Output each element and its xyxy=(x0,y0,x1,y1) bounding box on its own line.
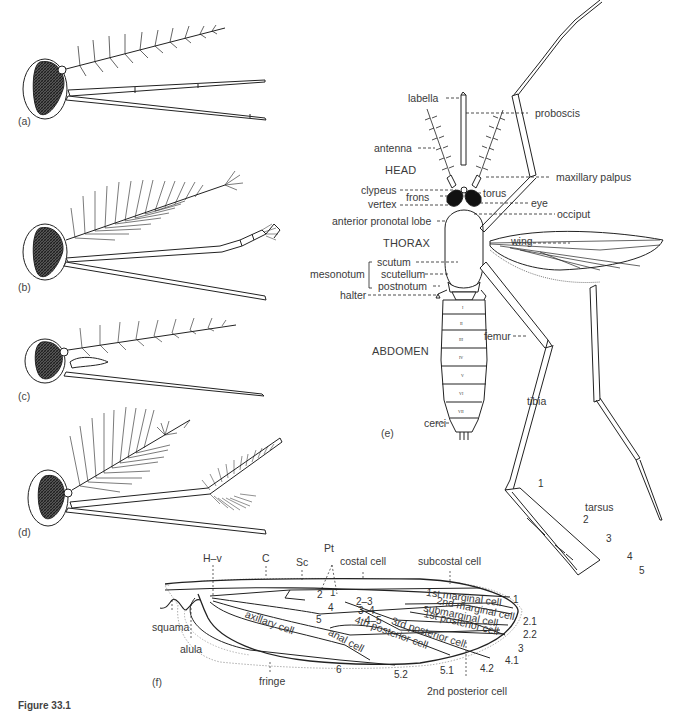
label-subcostal-cell: subcostal cell xyxy=(418,556,481,567)
vein-4-5: 4–5 xyxy=(365,616,382,626)
region-abdomen: ABDOMEN xyxy=(372,346,429,357)
svg-text:VI: VI xyxy=(459,391,464,396)
panel-label-c: (c) xyxy=(18,391,30,402)
tarsus-segment-3: 3 xyxy=(606,534,612,544)
vein-end-4-1: 4.1 xyxy=(505,656,519,666)
svg-text:IV: IV xyxy=(459,355,463,360)
panel-label-d: (d) xyxy=(18,527,31,538)
label-anterior-pronotal-lobe: anterior pronotal lobe xyxy=(332,216,431,227)
svg-text:III: III xyxy=(459,337,464,342)
vein-end-4-2: 4.2 xyxy=(480,664,494,674)
region-thorax: THORAX xyxy=(383,238,430,249)
label-squama: squama xyxy=(152,622,189,633)
label-maxillary-palpus: maxillary palpus xyxy=(556,172,631,183)
mosquito-anatomy-drawing: IIIIIIIVVVIVII xyxy=(0,0,685,712)
label-labella: labella xyxy=(408,93,438,104)
svg-text:VII: VII xyxy=(458,409,464,414)
label-c: C xyxy=(262,553,270,564)
region-head: HEAD xyxy=(385,165,416,176)
label-clypeus: clypeus xyxy=(361,185,397,196)
label-postnotum: postnotum xyxy=(378,281,427,292)
vein-4: 4 xyxy=(328,603,334,613)
head-c xyxy=(25,318,264,396)
head-d xyxy=(28,407,282,534)
label-halter: halter xyxy=(340,290,366,301)
label-tibia: tibia xyxy=(527,396,546,407)
vein-end-2-1: 2.1 xyxy=(523,617,537,627)
label-costal-cell: costal cell xyxy=(340,556,386,567)
tarsus-segment-4: 4 xyxy=(627,552,633,562)
panel-label-e: (e) xyxy=(381,428,394,439)
label-wing: wing xyxy=(511,236,533,247)
head-b xyxy=(23,171,280,300)
label-fringe: fringe xyxy=(259,676,285,687)
panel-label-b: (b) xyxy=(18,282,31,293)
label-eye: eye xyxy=(531,198,548,209)
label-torus: torus xyxy=(483,188,506,199)
label-mesonotum: mesonotum xyxy=(310,269,365,280)
vein-5: 5 xyxy=(316,615,322,625)
label-h-v: H–v xyxy=(203,553,222,564)
vein-end-5-2: 5.2 xyxy=(394,670,408,680)
label-2nd-posterior-cell: 2nd posterior cell xyxy=(427,686,507,697)
figure-caption: Figure 33.1 xyxy=(18,700,71,711)
vein-end-3: 3 xyxy=(518,644,524,654)
label-scutellum: scutellum xyxy=(381,269,425,280)
tarsus-segment-1: 1 xyxy=(538,479,544,489)
vein-end-6: 6 xyxy=(336,665,342,675)
vein-2: 2 xyxy=(317,590,323,600)
vein-end-2-2: 2.2 xyxy=(523,630,537,640)
label-occiput: occiput xyxy=(557,209,590,220)
label-proboscis: proboscis xyxy=(535,108,580,119)
head-a xyxy=(23,25,266,120)
vein-end-1: 1 xyxy=(513,595,519,605)
label-vertex: vertex xyxy=(368,199,397,210)
label-sc: Sc xyxy=(296,557,308,568)
label-scutum: scutum xyxy=(377,257,411,268)
mosquito-body-e: IIIIIIIVVVIVII xyxy=(425,0,663,575)
label-cerci: cerci xyxy=(424,418,446,429)
tarsus-segment-2: 2 xyxy=(583,515,589,525)
panel-label-a: (a) xyxy=(18,116,31,127)
label-frons: frons xyxy=(406,192,429,203)
panel-label-f: (f) xyxy=(152,677,162,688)
tarsus-segment-5: 5 xyxy=(639,566,645,576)
label-pt: Pt xyxy=(324,543,334,554)
svg-text:V: V xyxy=(461,373,464,378)
label-antenna: antenna xyxy=(374,143,412,154)
label-femur: femur xyxy=(484,331,511,342)
vein-1: 1 xyxy=(330,588,336,598)
label-alula: alula xyxy=(180,644,202,655)
vein-end-5-1: 5.1 xyxy=(440,666,454,676)
label-tarsus: tarsus xyxy=(585,502,614,513)
